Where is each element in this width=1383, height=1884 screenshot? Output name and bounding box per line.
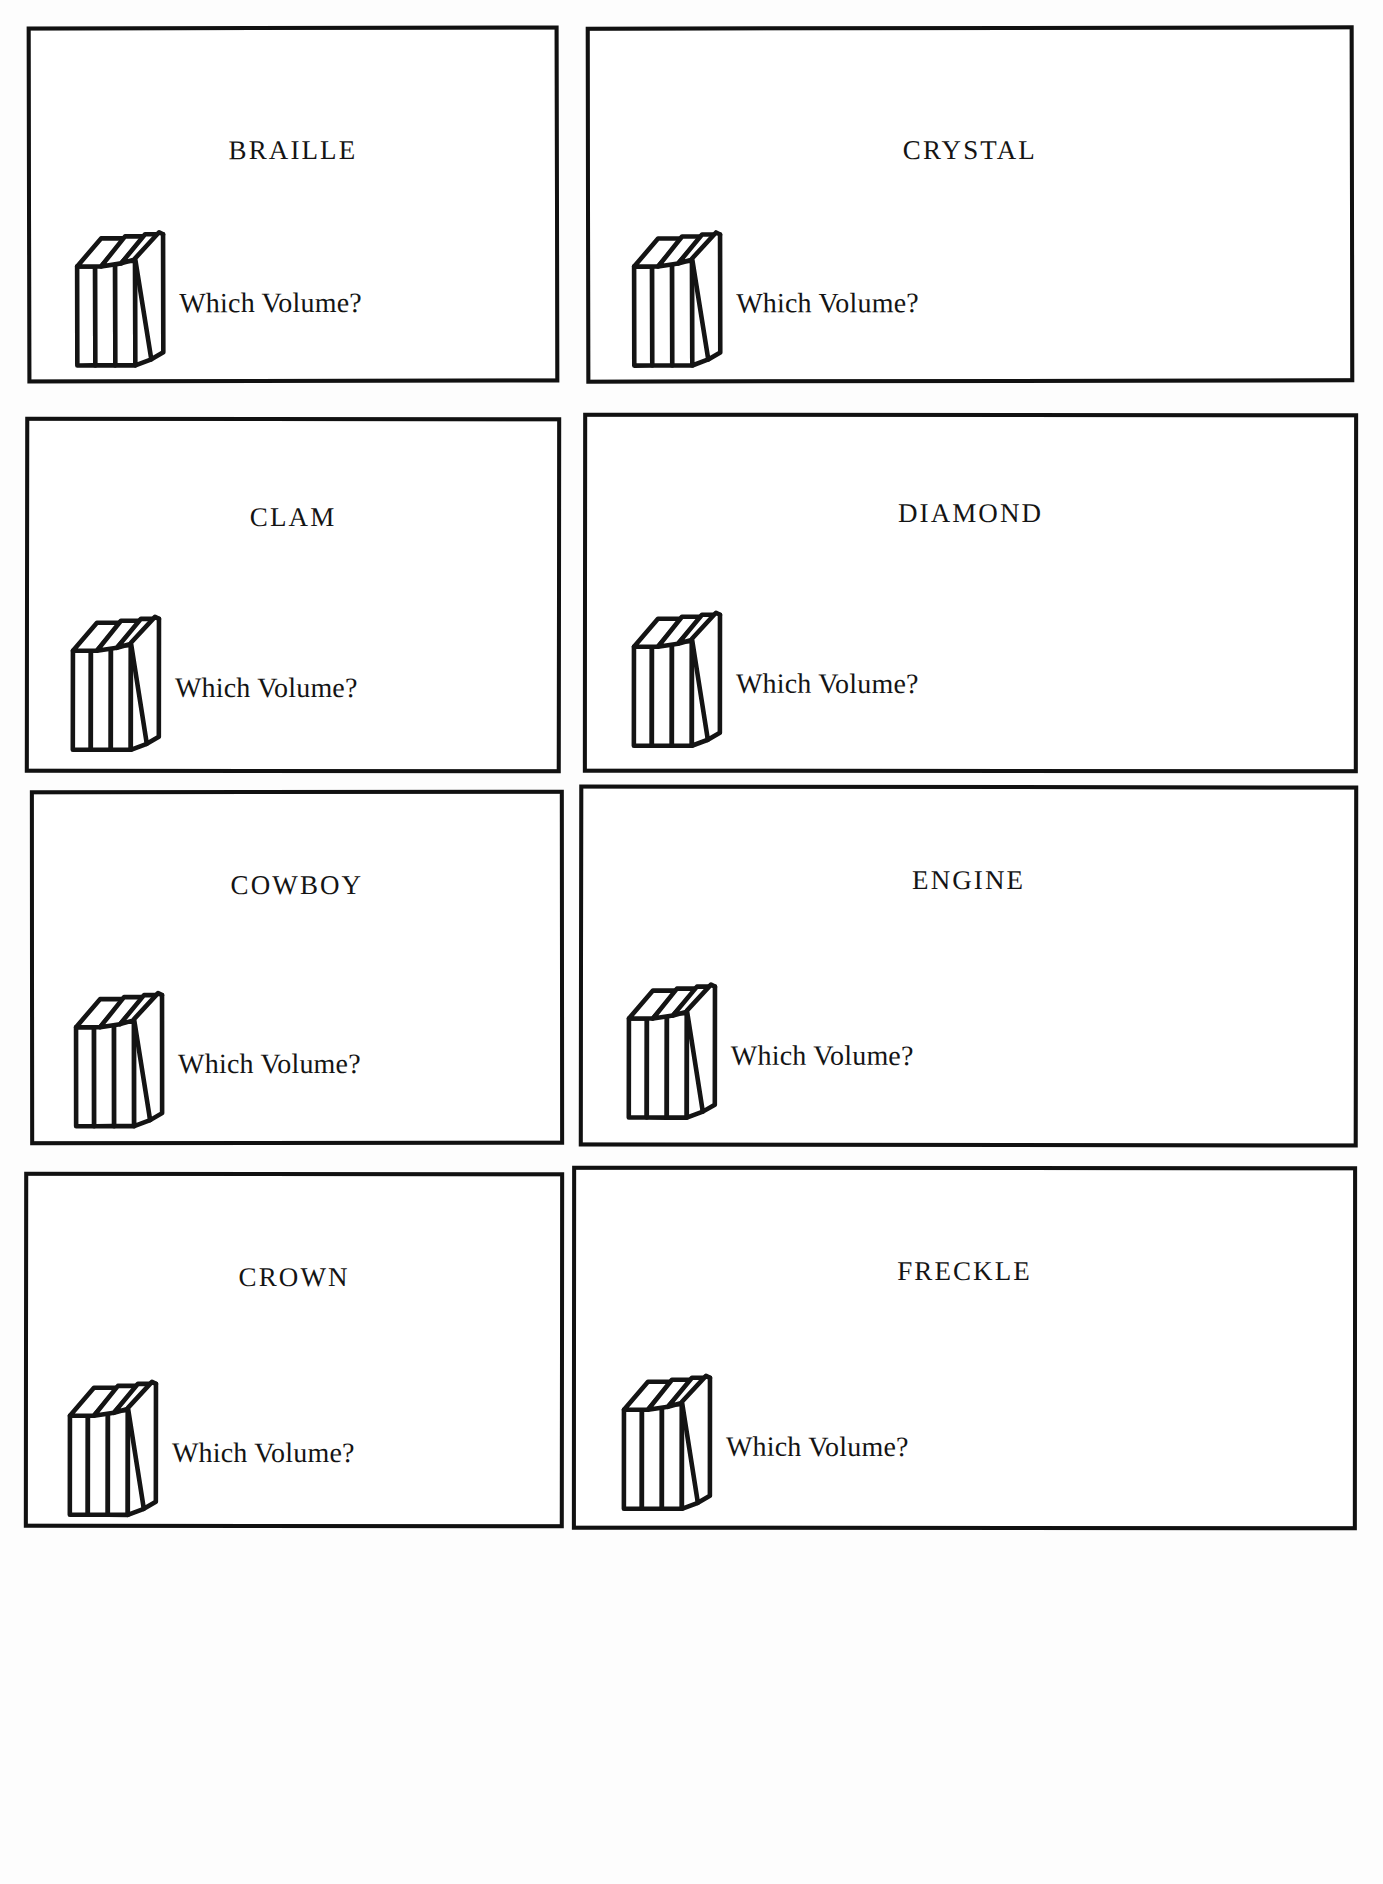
puzzle-card[interactable]: CROWN Which Volume? (24, 1172, 564, 1529)
card-title: COWBOY (34, 872, 560, 899)
card-title: BRAILLE (31, 136, 555, 164)
volume-prompt-row: Which Volume? (623, 979, 914, 1127)
volume-prompt-label: Which Volume? (178, 1050, 361, 1078)
volume-prompt-row: Which Volume? (628, 607, 919, 755)
volume-prompt-row: Which Volume? (628, 226, 919, 375)
row-of-books-icon (628, 226, 732, 374)
card-title: CLAM (29, 504, 557, 532)
card-title: CROWN (28, 1264, 560, 1292)
volume-prompt-row: Which Volume? (64, 1376, 355, 1524)
row-of-books-icon (71, 226, 175, 374)
puzzle-card[interactable]: CLAM Which Volume? (25, 417, 561, 774)
volume-prompt-row: Which Volume? (618, 1370, 909, 1518)
row-of-books-icon (628, 607, 732, 755)
row-of-books-icon (67, 611, 171, 759)
volume-prompt-label: Which Volume? (736, 289, 919, 317)
card-title: CRYSTAL (590, 136, 1350, 164)
card-title: FRECKLE (576, 1258, 1353, 1286)
document-page: BRAILLE Which Volume? (0, 0, 1383, 1884)
row-of-books-icon (623, 979, 727, 1127)
volume-prompt-row: Which Volume? (70, 987, 361, 1135)
card-title: ENGINE (583, 866, 1354, 894)
volume-prompt-label: Which Volume? (726, 1433, 909, 1461)
volume-prompt-row: Which Volume? (67, 611, 358, 759)
volume-prompt-label: Which Volume? (731, 1042, 914, 1070)
card-title: DIAMOND (587, 500, 1354, 528)
puzzle-card[interactable]: FRECKLE Which Volume? (572, 1166, 1357, 1531)
row-of-books-icon (618, 1370, 722, 1518)
puzzle-card[interactable]: CRYSTAL Which Volume? (586, 25, 1355, 383)
puzzle-card[interactable]: DIAMOND Which Volume? (583, 413, 1358, 774)
card-grid: BRAILLE Which Volume? (0, 0, 1383, 1884)
puzzle-card[interactable]: ENGINE Which Volume? (579, 784, 1359, 1147)
row-of-books-icon (70, 987, 174, 1135)
volume-prompt-row: Which Volume? (71, 226, 362, 375)
puzzle-card[interactable]: COWBOY Which Volume? (30, 790, 564, 1145)
volume-prompt-label: Which Volume? (736, 670, 919, 698)
row-of-books-icon (64, 1376, 168, 1524)
puzzle-card[interactable]: BRAILLE Which Volume? (27, 25, 560, 383)
volume-prompt-label: Which Volume? (179, 289, 362, 317)
volume-prompt-label: Which Volume? (172, 1439, 355, 1467)
volume-prompt-label: Which Volume? (175, 674, 358, 702)
